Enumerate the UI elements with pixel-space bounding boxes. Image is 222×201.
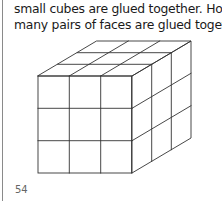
right-face xyxy=(132,41,191,173)
page-number: 54 xyxy=(15,184,28,196)
top-face xyxy=(38,41,191,76)
front-face xyxy=(38,76,132,173)
cube-figure xyxy=(0,0,222,201)
